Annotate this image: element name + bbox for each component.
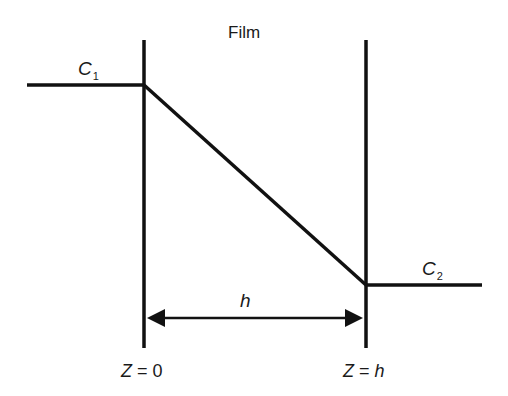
thickness-arrow (147, 309, 363, 327)
boundary-left-label: Z = 0 (120, 361, 163, 381)
film-title: Film (228, 23, 260, 42)
film-diffusion-diagram: Film C1 C2 h Z = 0 Z = h (0, 0, 508, 396)
thickness-label: h (240, 290, 251, 311)
c1-label: C1 (78, 58, 99, 82)
c2-label: C2 (422, 258, 443, 282)
arrowhead-left-icon (147, 309, 165, 327)
arrowhead-right-icon (345, 309, 363, 327)
boundary-right-label: Z = h (342, 361, 385, 381)
concentration-profile-line (144, 85, 366, 285)
